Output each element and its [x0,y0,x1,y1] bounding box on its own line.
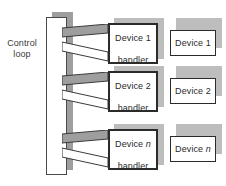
handler-index-row-3: n [146,139,151,149]
handler-label-line1-row-3: Device n [115,139,151,149]
device-handler-label-row-1: Device 1 handler [115,22,151,66]
handler-label-line1-row-2: Device 2 [115,81,151,91]
connector-wedge-row-3 [62,130,110,168]
control-loop-label-line2: loop [13,49,30,59]
device-box-row-2[interactable]: Device 2 [170,78,216,104]
control-loop-label-line1: Control [7,38,37,48]
handler-label-line2-row-1: handler [118,55,149,65]
diagram-canvas: Control loop Device 1 handler Device 1 D… [0,0,226,186]
control-loop-label: Control loop [0,38,44,60]
handler-label-line1-row-1: Device 1 [115,33,151,43]
handler-label-line2-row-3: handler [118,161,149,171]
device-handler-label-row-2: Device 2 handler [115,70,151,114]
device-label-row-3: Device n [175,144,211,155]
handler-label-line2-row-2: handler [118,103,149,113]
device-handler-box-row-2[interactable]: Device 2 handler [108,71,158,112]
device-handler-box-row-1[interactable]: Device 1 handler [108,23,158,64]
connector-wedge-row-2 [62,72,110,110]
device-label-row-1: Device 1 [175,38,211,49]
connector-wedge-row-1 [62,24,110,62]
device-index-row-3: n [206,144,211,154]
device-box-row-3[interactable]: Device n [170,136,216,162]
device-handler-label-row-3: Device n handler [115,128,151,172]
device-box-row-1[interactable]: Device 1 [170,30,216,56]
device-handler-box-row-3[interactable]: Device n handler [108,129,158,170]
device-label-row-2: Device 2 [175,86,211,97]
